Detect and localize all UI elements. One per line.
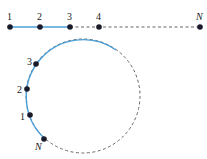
chain-diagram: 1 2 3 4 N 3 2 1 N (0, 0, 207, 159)
ring-label-1: 1 (20, 111, 25, 122)
ring-node-n (41, 136, 47, 142)
ring-solid-arc (26, 40, 116, 137)
chain-label-4: 4 (96, 11, 101, 22)
ring-node-3 (33, 61, 39, 67)
chain-label-3: 3 (67, 11, 72, 22)
chain-node-4 (96, 24, 102, 30)
chain-label-1: 1 (7, 11, 12, 22)
chain-node-1 (7, 24, 13, 30)
ring-label-3: 3 (27, 56, 32, 67)
chain-node-2 (37, 24, 43, 30)
chain-label-2: 2 (37, 11, 42, 22)
ring-label-n: N (34, 141, 43, 152)
chain-label-n: N (195, 11, 204, 22)
chain-node-n (197, 24, 203, 30)
ring-label-2: 2 (17, 84, 22, 95)
chain-node-3 (67, 24, 73, 30)
ring-node-1 (27, 112, 33, 118)
ring-node-2 (24, 86, 30, 92)
